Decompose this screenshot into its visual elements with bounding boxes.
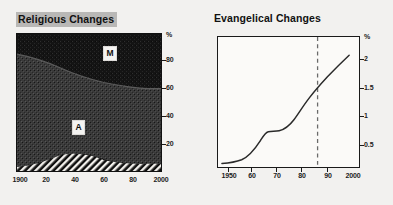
y-tickmark-40 bbox=[162, 116, 166, 117]
evangelical-line-svg bbox=[218, 37, 359, 167]
y-tickmark-0p5 bbox=[359, 145, 364, 146]
x-tick-evangelical-70: 70 bbox=[265, 172, 289, 179]
x-tick-evangelical-2000: 2000 bbox=[338, 172, 368, 179]
x-tick-evangelical-80: 80 bbox=[290, 172, 314, 179]
x-tick-evangelical-90: 90 bbox=[316, 172, 340, 179]
page-title-religious: Religious Changes bbox=[16, 12, 117, 27]
y-tickmark-60 bbox=[162, 88, 166, 89]
series-line-evangelical bbox=[222, 55, 349, 163]
x-tick-evangelical-1950: 1950 bbox=[215, 172, 243, 179]
y-tickmark-80 bbox=[162, 60, 166, 61]
religious-area-svg bbox=[16, 33, 162, 172]
chart-religious-changes bbox=[16, 33, 162, 172]
x-tick-evangelical-60: 60 bbox=[240, 172, 264, 179]
x-tick-religious-20: 20 bbox=[32, 176, 60, 183]
panel-religious-changes: Religious Changes bbox=[0, 0, 196, 205]
series-label-m: M bbox=[103, 46, 117, 61]
y-tick-evangelical-1: 1 bbox=[364, 112, 368, 119]
y-axis-religious: % 80 60 40 20 bbox=[166, 33, 192, 172]
series-label-a: A bbox=[72, 120, 85, 135]
y-tick-religious-40: 40 bbox=[166, 112, 174, 119]
y-tick-religious-80: 80 bbox=[166, 56, 174, 63]
x-tick-religious-80: 80 bbox=[119, 176, 147, 183]
y-tickmark-20 bbox=[162, 144, 166, 145]
y-tickmark-2 bbox=[359, 59, 364, 60]
y-tick-religious-60: 60 bbox=[166, 84, 174, 91]
y-axis-unit-religious: % bbox=[166, 31, 172, 38]
chart-evangelical-changes bbox=[217, 36, 360, 168]
x-tick-religious-1900: 1900 bbox=[6, 176, 34, 183]
x-axis-evangelical: 1950 60 70 80 90 2000 bbox=[204, 172, 384, 186]
x-axis-religious: 1900 20 40 60 80 2000 bbox=[6, 176, 186, 190]
y-tick-evangelical-2: 2 bbox=[364, 55, 368, 62]
y-tick-evangelical-0p5: 0.5 bbox=[364, 141, 373, 148]
y-axis-unit-evangelical: % bbox=[364, 33, 370, 40]
panel-evangelical-changes: Evangelical Changes % 2 1.5 1 0.5 1950 6… bbox=[196, 0, 393, 205]
y-tick-religious-20: 20 bbox=[166, 140, 174, 147]
x-tick-religious-2000: 2000 bbox=[146, 176, 176, 183]
y-tickmark-1p5 bbox=[359, 88, 364, 89]
x-tick-religious-40: 40 bbox=[61, 176, 89, 183]
y-tick-evangelical-1p5: 1.5 bbox=[364, 84, 373, 91]
y-axis-evangelical: % 2 1.5 1 0.5 bbox=[364, 36, 390, 168]
page-title-evangelical: Evangelical Changes bbox=[214, 12, 321, 24]
x-tick-religious-60: 60 bbox=[90, 176, 118, 183]
y-tickmark-1 bbox=[359, 116, 364, 117]
